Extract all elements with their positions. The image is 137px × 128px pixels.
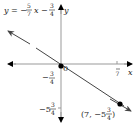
function-line — [36, 48, 124, 106]
svg-text:7: 7 — [116, 70, 120, 77]
svg-text:3: 3 — [107, 106, 111, 113]
svg-text:(7, −5: (7, −5 — [81, 110, 106, 119]
origin-label: 0 — [63, 64, 68, 73]
svg-text:3: 3 — [51, 101, 55, 108]
svg-text:−: − — [41, 6, 48, 15]
y-axis-label: y — [63, 6, 69, 15]
svg-text:): ) — [112, 110, 115, 119]
graph: y = − 5 7 x − 3 4 y x 0 7 − 3 4 −5 3 4 (… — [0, 0, 137, 128]
svg-text:7: 7 — [27, 10, 31, 17]
y-tick-label-minus-5-3-4: −5 3 4 — [39, 101, 56, 116]
equation-label: y = − 5 7 x − 3 4 — [3, 2, 55, 17]
svg-text:x: x — [34, 6, 39, 15]
svg-text:5: 5 — [27, 2, 31, 9]
svg-text:4: 4 — [51, 109, 55, 116]
svg-text:3: 3 — [50, 2, 54, 9]
function-line-arrow-upper — [8, 31, 30, 44]
svg-text:−: − — [42, 73, 49, 82]
svg-text:3: 3 — [50, 70, 54, 77]
point-7-neg-5-3-4 — [117, 101, 122, 106]
svg-text:4: 4 — [107, 114, 111, 121]
svg-text:−5: −5 — [39, 105, 51, 114]
point-label-7-neg-5-3-4: (7, −5 3 4 ) — [81, 106, 115, 121]
svg-text:4: 4 — [50, 10, 54, 17]
x-tick-label-7: 7 — [116, 69, 121, 77]
y-tick-label-minus-3-4: − 3 4 — [42, 70, 55, 85]
x-axis-label: x — [128, 68, 133, 77]
svg-text:= −: = − — [11, 6, 27, 15]
svg-text:y: y — [3, 6, 9, 15]
svg-text:4: 4 — [50, 78, 54, 85]
